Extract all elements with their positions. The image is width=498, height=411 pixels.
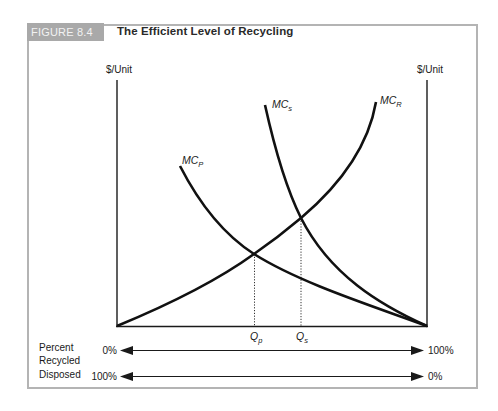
recycled-right-pct: 100% (428, 345, 454, 356)
disposed-left-pct: 100% (91, 371, 117, 382)
right-y-axis-label: $/Unit (417, 64, 443, 75)
mc-p-curve (180, 166, 427, 326)
disposed-row-label: Disposed (39, 368, 81, 381)
disposed-scale-arrow (120, 372, 424, 381)
recycled-scale-arrow (120, 346, 424, 355)
chart-canvas: $/Unit $/Unit MCP MCs MCR Qp Qs 0% 100% … (0, 0, 498, 411)
percent-row-label: Percent (39, 341, 73, 354)
mc-p-label: MCP (182, 154, 203, 169)
mc-s-curve (265, 105, 427, 326)
mc-r-label: MCR (380, 94, 402, 109)
recycled-left-pct: 0% (103, 345, 118, 356)
qp-label: Qp (250, 330, 262, 345)
disposed-right-pct: 0% (428, 371, 443, 382)
qs-label: Qs (296, 330, 308, 345)
recycled-row-label: Recycled (39, 354, 80, 367)
mc-s-label: MCs (272, 98, 292, 113)
left-y-axis-label: $/Unit (106, 64, 132, 75)
